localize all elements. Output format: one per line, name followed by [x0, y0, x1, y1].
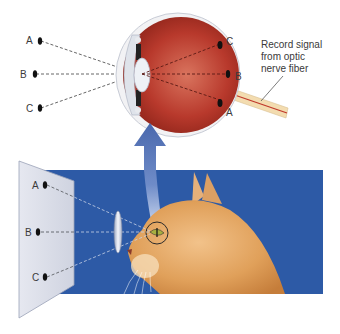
object-points — [33, 37, 42, 112]
screen-label-b: B — [25, 227, 32, 238]
eyeball — [116, 13, 240, 137]
annotation-line-2: from optic — [261, 51, 305, 62]
top-panel: A B C — [20, 13, 322, 137]
bottom-panel: A B C — [19, 123, 323, 318]
screen-point-b — [36, 228, 40, 236]
screen-label-a: A — [32, 180, 39, 191]
retina-point-c — [218, 41, 223, 49]
retina-label-a: A — [226, 107, 233, 118]
annotation-line-3: nerve fiber — [261, 63, 309, 74]
vision-diagram: A B C — [0, 0, 340, 334]
annotation-line-1: Record signal — [261, 39, 322, 50]
external-lens — [114, 211, 122, 253]
screen-label-c: C — [32, 272, 39, 283]
object-label-b: B — [20, 69, 27, 80]
object-label-a: A — [26, 35, 33, 46]
nerve-annotation: Record signal from optic nerve fiber — [261, 39, 322, 101]
object-point-a — [38, 37, 42, 45]
eye-lens — [134, 58, 150, 92]
screen-point-c — [43, 273, 47, 281]
object-point-c — [38, 104, 42, 112]
screen-point-a — [43, 181, 47, 189]
object-point-b — [33, 70, 37, 78]
retina-point-a — [218, 99, 223, 107]
retina-point-b — [226, 70, 230, 78]
object-label-c: C — [26, 103, 33, 114]
retina-label-c: C — [226, 36, 233, 47]
retina-label-b: B — [235, 71, 242, 82]
